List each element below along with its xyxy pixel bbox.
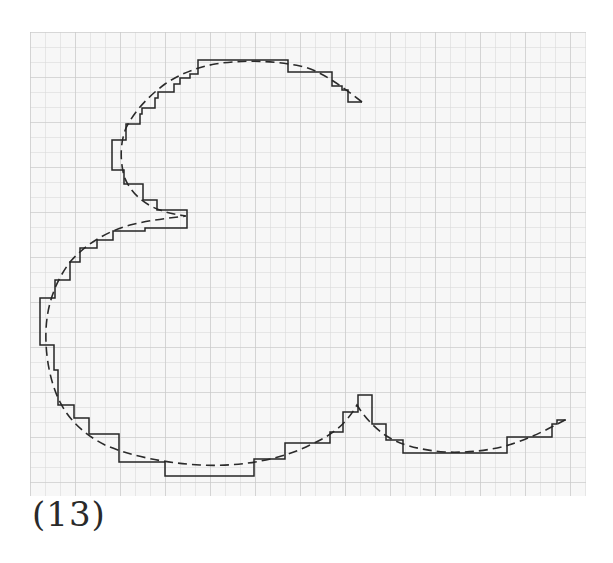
grid-figure — [0, 0, 613, 563]
major-grid — [30, 32, 586, 496]
figure-caption: (13) — [32, 494, 106, 534]
